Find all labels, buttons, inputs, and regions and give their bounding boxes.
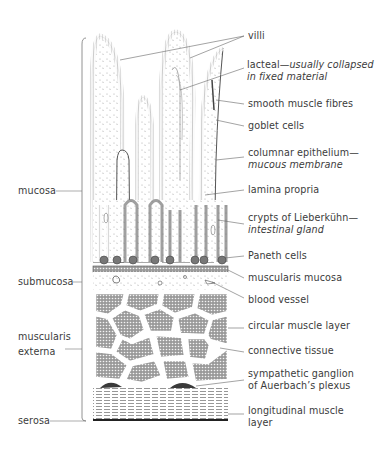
mucosa-layer — [92, 32, 228, 264]
label-lacteal: lacteal—usually collapsed in fixed mater… — [247, 59, 374, 83]
label-lacteal-dash: — — [280, 59, 290, 70]
label-connective-tissue: connective tissue — [248, 345, 334, 357]
label-sympathetic-ganglion: sympathetic ganglion of Auerbach’s plexu… — [248, 368, 354, 392]
label-serosa: serosa — [18, 415, 50, 427]
label-sympathetic-ganglion-line1: sympathetic ganglion — [248, 368, 354, 380]
label-lamina-propria: lamina propria — [248, 184, 319, 196]
label-muscularis-mucosa: muscularis mucosa — [248, 272, 342, 284]
label-sympathetic-ganglion-line2: of Auerbach’s plexus — [248, 380, 354, 392]
label-longitudinal-muscle-line2: layer — [248, 417, 344, 429]
crypts — [93, 200, 228, 262]
label-columnar-epithelium-note: mucous membrane — [248, 159, 359, 171]
label-paneth-cells: Paneth cells — [248, 250, 307, 262]
label-blood-vessel: blood vessel — [248, 294, 309, 306]
label-muscularis-externa: muscularis externa — [18, 331, 71, 358]
label-crypts-of-lieberkuhn: crypts of Lieberkühn— intestinal gland — [248, 212, 358, 236]
label-circular-muscle-layer: circular muscle layer — [248, 320, 350, 332]
submucosa-layer — [93, 272, 228, 290]
muscularis-mucosa-layer — [93, 266, 228, 272]
label-villi: villi — [248, 30, 265, 42]
layer-bracket — [82, 38, 86, 421]
label-lacteal-note-line2: in fixed material — [247, 71, 374, 83]
label-columnar-epithelium: columnar epithelium— mucous membrane — [248, 147, 359, 171]
label-goblet-cells: goblet cells — [248, 120, 304, 132]
longitudinal-muscle-layer-shape — [93, 388, 228, 420]
label-longitudinal-muscle-line1: longitudinal muscle — [248, 405, 344, 417]
label-muscularis-externa-line2: externa — [18, 346, 71, 358]
label-submucosa: submucosa — [18, 276, 74, 288]
label-crypts-note: intestinal gland — [248, 224, 358, 236]
label-mucosa: mucosa — [18, 185, 56, 197]
label-crypts-text: crypts of Lieberkühn— — [248, 212, 358, 223]
left-leader-lines — [50, 191, 86, 421]
circular-muscle-layer-shape — [93, 291, 228, 395]
label-lacteal-text: lacteal — [247, 59, 280, 70]
label-lacteal-note: usually collapsed — [289, 59, 373, 70]
label-smooth-muscle-fibres: smooth muscle fibres — [248, 98, 353, 110]
label-muscularis-externa-line1: muscularis — [18, 331, 71, 343]
label-columnar-epithelium-text: columnar epithelium— — [248, 147, 359, 158]
label-longitudinal-muscle-layer: longitudinal muscle layer — [248, 405, 344, 429]
